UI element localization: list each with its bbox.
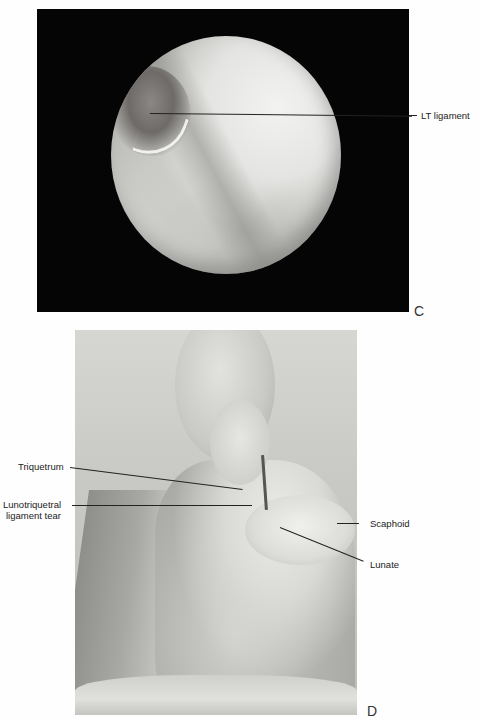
panel-letter-d: D <box>367 703 377 719</box>
label-lunotriquetral-line2: ligament tear <box>6 510 61 521</box>
label-lunotriquetral-line1: Lunotriquetral <box>3 499 61 510</box>
carpal-joint <box>155 460 355 710</box>
label-triquetrum: Triquetrum <box>18 461 64 472</box>
finger-tip <box>210 400 270 485</box>
surgical-photo-panel-d <box>75 330 357 715</box>
leader-line-lunotriquetral-tear <box>72 505 252 506</box>
arthroscope-view-circle <box>111 36 341 274</box>
label-scaphoid: Scaphoid <box>370 518 410 529</box>
arthroscopic-image-panel-c <box>37 9 409 312</box>
leader-tick-lt-ligament <box>409 115 417 116</box>
label-lunate: Lunate <box>370 559 399 570</box>
scaphoid-lunate-bone <box>245 495 355 565</box>
lower-retractor <box>75 675 357 715</box>
leader-line-scaphoid <box>337 523 359 524</box>
label-lt-ligament: LT ligament <box>421 110 470 121</box>
panel-letter-c: C <box>414 303 424 319</box>
